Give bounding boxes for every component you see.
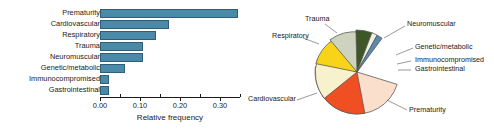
pie-chart: Respiratory Trauma Neuromuscular Genetic… (247, 0, 494, 130)
bar-row: Respiratory (0, 31, 247, 40)
x-axis-tick-label: 0.10 (133, 101, 147, 110)
bar-row: Prematurity (0, 9, 247, 18)
bar-category-label: Prematurity (0, 8, 100, 18)
x-axis-line (100, 97, 240, 98)
x-axis-title: Relative frequency (100, 113, 240, 122)
x-axis-tick (220, 97, 221, 101)
bar-rect (100, 20, 169, 29)
leader-line-prematurity (387, 100, 407, 110)
pie-label-gastrointestinal: Gastrointestinal (415, 65, 465, 73)
bar-row: Cardiovascular (0, 20, 247, 29)
bar-rect (100, 53, 143, 62)
x-axis-tick-label: 0.00 (93, 101, 107, 110)
x-axis-tick (100, 97, 101, 101)
bar-category-label: Genetic/metabolic (0, 63, 100, 73)
pie-label-trauma: Trauma (305, 15, 330, 23)
pie-slices (302, 22, 397, 125)
x-axis-minor-tick (240, 94, 241, 98)
leader-line-genetic (396, 48, 413, 55)
bar-rect (100, 9, 238, 18)
bar-category-label: Gastrointestinal (0, 85, 100, 95)
x-axis-tick-label: 0.30 (213, 101, 227, 110)
bar-category-label: Neuromuscular (0, 52, 100, 62)
leader-line-immuno (397, 61, 411, 64)
x-axis-tick (140, 97, 141, 101)
pie-label-immunocompromised: Immunocompromised (415, 56, 484, 64)
leader-line-cardiovascular (297, 93, 317, 100)
bar-row: Neuromuscular (0, 53, 247, 62)
bar-rect (100, 64, 125, 73)
bar-rect (100, 86, 109, 95)
bar-rect (100, 31, 156, 40)
leader-line-trauma (325, 24, 337, 33)
x-axis-tick-label: 0.20 (173, 101, 187, 110)
pie-label-neuromuscular: Neuromuscular (407, 20, 456, 28)
bar-category-label: Respiratory (0, 30, 100, 40)
bar-category-label: Cardiovascular (0, 19, 100, 29)
x-axis-minor-tick (160, 94, 161, 98)
leader-line-neuromuscular (384, 26, 405, 38)
bar-rect (100, 75, 109, 84)
pie-label-prematurity: Prematurity (409, 106, 446, 114)
bar-row: Genetic/metabolic (0, 64, 247, 73)
x-axis-tick (180, 97, 181, 101)
pie-label-cardiovascular: Cardiovascular (248, 95, 296, 103)
figure-panel: Prematurity Cardiovascular Respiratory T… (0, 0, 494, 130)
x-axis-minor-tick (120, 94, 121, 98)
bar-chart: Prematurity Cardiovascular Respiratory T… (0, 0, 247, 130)
pie-label-genetic-metabolic: Genetic/metabolic (415, 43, 473, 51)
bar-row: Trauma (0, 42, 247, 51)
x-axis-minor-tick (200, 94, 201, 98)
bar-row: Gastrointestinal (0, 86, 247, 95)
pie-label-respiratory: Respiratory (272, 32, 309, 40)
bar-rect (100, 42, 143, 51)
bar-row: Immunocompromised (0, 75, 247, 84)
bar-category-label: Trauma (0, 41, 100, 51)
bar-category-label: Immunocompromised (0, 74, 100, 84)
